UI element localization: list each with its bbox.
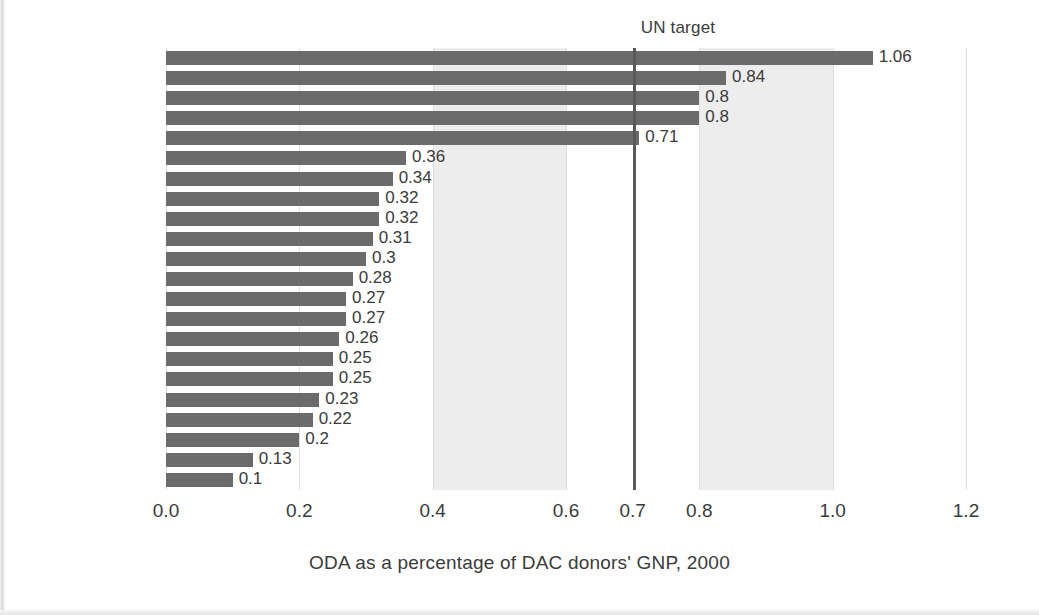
bar-value-label: 0.84: [732, 66, 765, 87]
gridline-1.2: [966, 48, 967, 490]
x-tick-label: 0.7: [619, 500, 645, 522]
x-tick-label: 0.0: [153, 500, 179, 522]
bar-value-label: 0.32: [385, 207, 418, 228]
bar: [166, 71, 726, 85]
bar: [166, 413, 313, 427]
x-tick-label: 0.6: [553, 500, 579, 522]
bar-value-label: 0.8: [705, 86, 729, 107]
bar-value-label: 0.2: [305, 428, 329, 449]
bar: [166, 252, 366, 266]
bar-row: Sweden0.8: [166, 108, 966, 128]
bar: [166, 131, 639, 145]
bar-row: United Kingdom0.32: [166, 209, 966, 229]
bar: [166, 192, 379, 206]
bar: [166, 91, 699, 105]
bar-value-label: 0.34: [399, 167, 432, 188]
bar-row: France0.32: [166, 189, 966, 209]
bar: [166, 292, 346, 306]
bar-row: New Zealand0.25: [166, 349, 966, 369]
bar: [166, 393, 319, 407]
x-tick-label: 0.8: [686, 500, 712, 522]
bar: [166, 151, 406, 165]
page-edge-strip-bottom: [0, 610, 1039, 615]
bar-row: Greece0.2: [166, 430, 966, 450]
page-edge-strip-left: [0, 0, 5, 615]
bar-row: Italy0.13: [166, 450, 966, 470]
bar-value-label: 0.25: [339, 367, 372, 388]
bar-row: Norway0.8: [166, 88, 966, 108]
bar-row: Portugal0.26: [166, 329, 966, 349]
bar-row: Switzerland0.34: [166, 169, 966, 189]
bar: [166, 453, 253, 467]
bar: [166, 111, 699, 125]
bar-row: Ireland0.3: [166, 249, 966, 269]
un-target-line: [633, 48, 636, 490]
bar-value-label: 0.32: [385, 187, 418, 208]
bar: [166, 212, 379, 226]
bar: [166, 352, 333, 366]
bar: [166, 312, 346, 326]
bar-value-label: 0.3: [372, 247, 396, 268]
bar: [166, 272, 353, 286]
bar-row: Netherlands0.84: [166, 68, 966, 88]
bar-value-label: 0.25: [339, 347, 372, 368]
bar-value-label: 0.28: [359, 267, 392, 288]
bar: [166, 473, 233, 487]
x-tick-label: 0.4: [419, 500, 445, 522]
bar-row: Australia0.27: [166, 309, 966, 329]
bar-value-label: 0.31: [379, 227, 412, 248]
bar-value-label: 0.8: [705, 106, 729, 127]
bar-row: Denmark1.06: [166, 48, 966, 68]
bar-rows: Denmark1.06Netherlands0.84Norway0.8Swede…: [166, 48, 966, 490]
plot-area: Denmark1.06Netherlands0.84Norway0.8Swede…: [166, 48, 966, 490]
bar-value-label: 0.27: [352, 307, 385, 328]
bar: [166, 232, 373, 246]
x-axis-title: ODA as a percentage of DAC donors' GNP, …: [0, 552, 1039, 574]
bar-row: Spain0.22: [166, 410, 966, 430]
bar: [166, 332, 339, 346]
bar-value-label: 0.27: [352, 287, 385, 308]
bar-row: Austria0.23: [166, 390, 966, 410]
x-tick-label: 1.0: [819, 500, 845, 522]
chart-figure: Denmark1.06Netherlands0.84Norway0.8Swede…: [0, 0, 1039, 615]
bar-value-label: 1.06: [879, 46, 912, 67]
bar-row: United States0.1: [166, 470, 966, 490]
bar: [166, 372, 333, 386]
bar-row: Luxembourg0.71: [166, 128, 966, 148]
bar-row: Japan0.28: [166, 269, 966, 289]
bar-row: Finland0.31: [166, 229, 966, 249]
bar: [166, 172, 393, 186]
bar-value-label: 0.1: [239, 468, 263, 489]
bar: [166, 51, 873, 65]
bar-value-label: 0.36: [412, 146, 445, 167]
bar-value-label: 0.71: [645, 126, 678, 147]
bar-row: Belgium0.36: [166, 148, 966, 168]
bar: [166, 433, 299, 447]
bar-value-label: 0.22: [319, 408, 352, 429]
bar-value-label: 0.26: [345, 327, 378, 348]
bar-row: Germany0.27: [166, 289, 966, 309]
bar-value-label: 0.23: [325, 388, 358, 409]
bar-value-label: 0.13: [259, 448, 292, 469]
un-target-label: UN target: [641, 18, 716, 38]
x-tick-label: 1.2: [953, 500, 979, 522]
x-tick-label: 0.2: [286, 500, 312, 522]
bar-row: Canada0.25: [166, 369, 966, 389]
